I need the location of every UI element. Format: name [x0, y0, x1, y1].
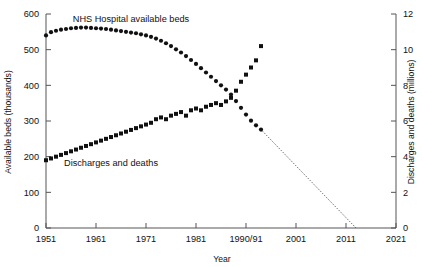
- tick-marks-group: [46, 14, 396, 228]
- data-point-circle: [194, 62, 198, 66]
- y-left-tick-label-400: 400: [24, 81, 39, 91]
- y-axis-right-title: Discharges and deaths (millions): [406, 60, 416, 185]
- y-right-tick-label-12: 12: [403, 9, 413, 19]
- data-point-circle: [249, 119, 253, 123]
- data-point-circle: [54, 29, 58, 33]
- projection-dotted-line: [261, 130, 356, 228]
- data-point-circle: [49, 30, 53, 34]
- data-point-circle: [104, 27, 108, 31]
- y-axis-left-title: Available beds (thousands): [3, 70, 13, 174]
- data-point-square: [144, 123, 148, 127]
- series-annotation-1: NHS Hospital available beds: [73, 14, 190, 24]
- data-point-circle: [64, 27, 68, 31]
- data-point-circle: [89, 26, 93, 30]
- series-3: [261, 130, 356, 228]
- data-point-circle: [204, 70, 208, 74]
- data-point-circle: [254, 123, 258, 127]
- data-point-square: [99, 139, 103, 143]
- y-left-tick-labels-group: 0100200300400500600: [24, 9, 39, 233]
- data-point-circle: [154, 37, 158, 41]
- x-tick-label-1981: 1981: [186, 234, 206, 244]
- data-point-square: [174, 112, 178, 116]
- data-point-square: [104, 137, 108, 141]
- data-point-square: [149, 121, 153, 125]
- data-point-square: [94, 140, 98, 144]
- data-point-square: [239, 80, 243, 84]
- data-point-circle: [114, 28, 118, 32]
- data-point-square: [44, 158, 48, 162]
- data-point-square: [204, 105, 208, 109]
- data-point-circle: [69, 26, 73, 30]
- data-point-square: [79, 146, 83, 150]
- data-point-square: [59, 153, 63, 157]
- data-point-square: [249, 66, 253, 70]
- y-left-tick-label-600: 600: [24, 9, 39, 19]
- data-point-square: [89, 142, 93, 146]
- data-point-circle: [134, 31, 138, 35]
- data-point-square: [259, 44, 263, 48]
- y-left-tick-label-0: 0: [34, 223, 39, 233]
- data-point-square: [129, 128, 133, 132]
- y-right-tick-label-0: 0: [403, 223, 408, 233]
- data-point-square: [234, 89, 238, 93]
- data-point-square: [199, 108, 203, 112]
- series-1: [44, 25, 263, 131]
- data-series-group: [44, 25, 356, 228]
- x-tick-labels-group: 19511961197119811990/91200120112021: [36, 234, 406, 244]
- x-axis-title: Year: [213, 254, 231, 264]
- data-point-circle: [84, 25, 88, 29]
- data-point-circle: [79, 25, 83, 29]
- y-left-tick-label-300: 300: [24, 116, 39, 126]
- data-point-circle: [59, 28, 63, 32]
- data-point-square: [134, 126, 138, 130]
- data-point-circle: [189, 58, 193, 62]
- x-tick-label-1951: 1951: [36, 234, 56, 244]
- data-point-circle: [234, 99, 238, 103]
- x-tick-label-2021: 2021: [386, 234, 406, 244]
- data-point-circle: [149, 35, 153, 39]
- data-point-square: [124, 130, 128, 134]
- data-point-circle: [174, 47, 178, 51]
- series-annotations-group: NHS Hospital available bedsDischarges an…: [64, 14, 190, 168]
- data-point-square: [69, 149, 73, 153]
- data-point-circle: [159, 39, 163, 43]
- data-point-circle: [109, 28, 113, 32]
- y-left-tick-label-100: 100: [24, 188, 39, 198]
- x-tick-label-1961: 1961: [86, 234, 106, 244]
- data-point-square: [84, 144, 88, 148]
- data-point-square: [184, 114, 188, 118]
- data-point-square: [159, 115, 163, 119]
- y-right-tick-label-2: 2: [403, 188, 408, 198]
- data-point-circle: [119, 29, 123, 33]
- data-point-circle: [99, 27, 103, 31]
- data-point-square: [189, 108, 193, 112]
- data-point-square: [154, 117, 158, 121]
- x-tick-label-1971: 1971: [136, 234, 156, 244]
- y-right-tick-label-10: 10: [403, 45, 413, 55]
- data-point-square: [214, 101, 218, 105]
- data-point-circle: [139, 32, 143, 36]
- x-tick-label-2011: 2011: [336, 234, 356, 244]
- data-point-circle: [214, 79, 218, 83]
- data-point-circle: [209, 75, 213, 79]
- x-tick-label-1990/91: 1990/91: [229, 234, 262, 244]
- data-point-circle: [244, 112, 248, 116]
- data-point-square: [209, 103, 213, 107]
- data-point-circle: [169, 44, 173, 48]
- nhs-beds-discharges-chart: 19511961197119811990/91200120112021 0100…: [0, 0, 422, 267]
- data-point-circle: [239, 106, 243, 110]
- data-point-square: [64, 151, 68, 155]
- data-point-square: [49, 156, 53, 160]
- y-left-tick-label-500: 500: [24, 45, 39, 55]
- data-point-square: [229, 96, 233, 100]
- data-point-square: [74, 148, 78, 152]
- data-point-circle: [44, 33, 48, 37]
- series-2: [44, 44, 263, 162]
- data-point-circle: [184, 54, 188, 58]
- x-tick-label-2001: 2001: [286, 234, 306, 244]
- data-point-circle: [144, 33, 148, 37]
- data-point-square: [54, 155, 58, 159]
- data-point-circle: [94, 26, 98, 30]
- data-point-circle: [74, 26, 78, 30]
- data-point-circle: [224, 88, 228, 92]
